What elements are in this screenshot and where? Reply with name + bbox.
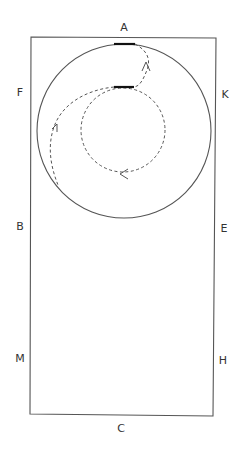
arrow-left-icon: [120, 169, 128, 179]
arena-letter-f: F: [17, 87, 23, 98]
outer-circle: [37, 44, 211, 218]
inner-dashed-circle: [81, 88, 165, 172]
arena-boundary: [30, 37, 216, 416]
arena-letter-h: H: [219, 355, 227, 366]
outer-sweep-path: [50, 87, 114, 185]
arena-letter-m: M: [15, 353, 25, 364]
arena-letter-e: E: [221, 223, 228, 234]
arena-letter-c: C: [117, 423, 125, 434]
arena-letter-a: A: [120, 22, 128, 33]
arena-letter-b: B: [16, 221, 24, 232]
arena-diagram: [0, 0, 240, 452]
arena-letter-k: K: [221, 89, 228, 100]
connector-path: [134, 44, 149, 87]
